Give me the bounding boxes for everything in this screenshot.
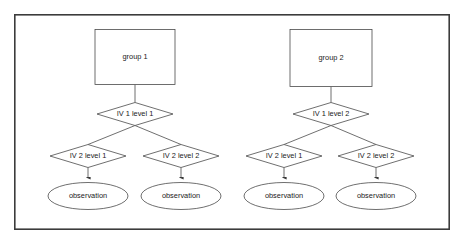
connector-iv1-to-iv2 [284,126,331,145]
diagram-canvas: group 1IV 1 level 1IV 2 level 1observati… [0,0,461,241]
iv1-node-label: IV 1 level 2 [313,109,350,118]
connector-iv1-to-iv2 [88,126,135,145]
iv2-node-label: IV 2 level 1 [70,151,107,160]
shape-layer: group 1IV 1 level 1IV 2 level 1observati… [48,30,416,210]
connector-iv1-to-iv2 [331,126,376,145]
connector-iv1-to-iv2 [135,126,181,145]
iv2-node-label: IV 2 level 2 [163,151,200,160]
iv2-node-label: IV 2 level 2 [358,151,395,160]
observation-label: observation [162,191,200,200]
group-box-label: group 1 [122,52,147,61]
observation-label: observation [357,191,395,200]
iv1-node-label: IV 1 level 1 [117,109,154,118]
observation-label: observation [69,191,107,200]
group-box-label: group 2 [318,53,343,62]
connector-layer [88,85,376,178]
hierarchy-diagram: group 1IV 1 level 1IV 2 level 1observati… [0,0,461,241]
iv2-node-label: IV 2 level 1 [266,151,303,160]
observation-label: observation [265,191,303,200]
